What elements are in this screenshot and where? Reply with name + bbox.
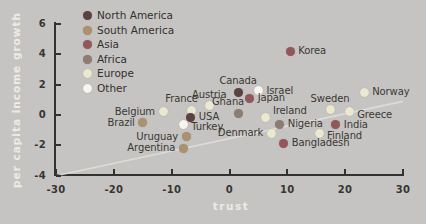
y-tick [56, 144, 61, 146]
point-label-finland: Finland [327, 130, 362, 141]
y-axis-title: per capita income growth [10, 28, 22, 188]
x-tick-label: 10 [272, 184, 302, 195]
data-point-nigeria [275, 120, 284, 129]
data-point-ghana [234, 109, 243, 118]
legend-item-asia: Asia [83, 40, 174, 49]
data-point-korea [286, 47, 295, 56]
legend-label-south-america: South America [97, 26, 174, 35]
point-label-ireland: Ireland [273, 105, 307, 116]
x-tick-label: 30 [388, 184, 418, 195]
scatter-chart: per capita income growth -30-20-10010203… [0, 0, 426, 224]
point-label-belgium: Belgium [115, 106, 155, 117]
legend-swatch-europe [83, 69, 92, 78]
legend-label-europe: Europe [97, 69, 134, 78]
legend-item-africa: Africa [83, 55, 174, 64]
y-tick [56, 84, 61, 86]
x-tick-label: -20 [99, 184, 129, 195]
point-label-uruguay: Uruguay [136, 131, 178, 142]
y-tick-label: 0 [22, 109, 46, 120]
y-axis-line [54, 22, 56, 176]
legend-item-europe: Europe [83, 69, 174, 78]
y-tick [56, 114, 61, 116]
data-point-greece [345, 107, 354, 116]
legend-item-north-america: North America [83, 11, 174, 20]
point-label-ghana: Ghana [212, 96, 244, 107]
y-tick-label: -4 [22, 170, 46, 181]
point-label-nigeria: Nigeria [288, 118, 323, 129]
y-tick-label: 2 [22, 79, 46, 90]
legend-label-africa: Africa [97, 55, 127, 64]
data-point-argentina [179, 144, 188, 153]
x-axis-title: trust [213, 200, 249, 212]
x-tick [402, 169, 404, 174]
y-tick-label: 4 [22, 48, 46, 59]
data-point-sweden [326, 105, 335, 114]
data-point-turkey [179, 120, 188, 129]
y-tick-label: -2 [22, 139, 46, 150]
data-point-uruguay [182, 132, 191, 141]
data-point-india [331, 120, 340, 129]
data-point-japan [245, 94, 254, 103]
legend-label-other: Other [97, 84, 127, 93]
x-tick-label: -30 [41, 184, 71, 195]
legend-item-south-america: South America [83, 26, 174, 35]
legend-swatch-africa [83, 55, 92, 64]
x-tick-label: -10 [157, 184, 187, 195]
y-tick [56, 23, 61, 25]
x-tick-label: 20 [330, 184, 360, 195]
point-label-norway: Norway [372, 86, 409, 97]
data-point-norway [360, 88, 369, 97]
x-tick [55, 169, 57, 174]
x-tick [113, 169, 115, 174]
legend-label-north-america: North America [97, 11, 173, 20]
legend-swatch-south-america [83, 26, 92, 35]
legend-item-other: Other [83, 84, 174, 93]
x-tick-label: 0 [215, 184, 245, 195]
point-label-argentina: Argentina [127, 142, 175, 153]
legend-label-asia: Asia [97, 40, 119, 49]
x-tick [344, 169, 346, 174]
y-tick [56, 53, 61, 55]
legend-swatch-other [83, 84, 92, 93]
legend-swatch-asia [83, 40, 92, 49]
data-point-brazil [138, 118, 147, 127]
point-label-brazil: Brazil [107, 117, 134, 128]
point-label-canada: Canada [219, 75, 256, 86]
data-point-canada [234, 88, 243, 97]
point-label-japan: Japan [258, 92, 285, 103]
data-point-ireland [261, 113, 270, 122]
legend: North AmericaSouth AmericaAsiaAfricaEuro… [83, 11, 174, 98]
data-point-denmark [267, 129, 276, 138]
point-label-denmark: Denmark [218, 127, 263, 138]
point-label-sweden: Sweden [311, 93, 350, 104]
x-tick [171, 169, 173, 174]
y-tick-label: 6 [22, 18, 46, 29]
data-point-bangladesh [279, 139, 288, 148]
y-tick [56, 175, 61, 177]
data-point-finland [315, 129, 324, 138]
x-tick [286, 169, 288, 174]
x-tick [229, 169, 231, 174]
point-label-india: India [344, 119, 368, 130]
legend-swatch-north-america [83, 11, 92, 20]
data-point-belgium [159, 107, 168, 116]
point-label-korea: Korea [298, 45, 326, 56]
x-axis-line [54, 174, 404, 176]
